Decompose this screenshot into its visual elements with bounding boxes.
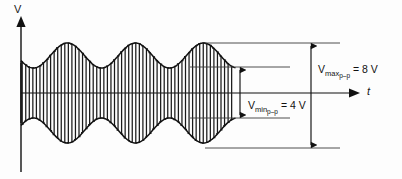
time-axis-label: t <box>367 86 370 97</box>
vmin-annotation-label: Vminp–p = 4 V <box>248 100 306 111</box>
vmax-annotation-label: Vmaxp–p = 8 V <box>318 64 378 75</box>
vmin-symbol: V <box>248 99 255 111</box>
voltage-axis-label: V <box>14 4 21 15</box>
time-axis-arrow <box>349 88 360 97</box>
vmin-sub-main: min <box>255 105 267 114</box>
voltage-axis-arrow <box>16 16 25 27</box>
vmax-sub-sub: p–p <box>339 72 350 79</box>
vmax-value: = 8 V <box>350 63 378 75</box>
vmax-sub-main: max <box>325 69 339 78</box>
am-waveform-figure: V t Vmaxp–p = 8 V Vminp–p = 4 V <box>0 0 402 179</box>
waveform-svg <box>0 0 402 179</box>
vmin-value: = 4 V <box>278 99 306 111</box>
vmax-symbol: V <box>318 63 325 75</box>
reference-lines <box>190 43 340 148</box>
vmin-sub-sub: p–p <box>267 108 278 115</box>
